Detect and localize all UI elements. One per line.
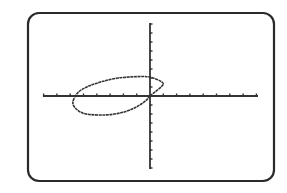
graph-plot [0, 0, 287, 193]
calculator-screen [0, 0, 287, 193]
screen-frame [28, 13, 274, 181]
